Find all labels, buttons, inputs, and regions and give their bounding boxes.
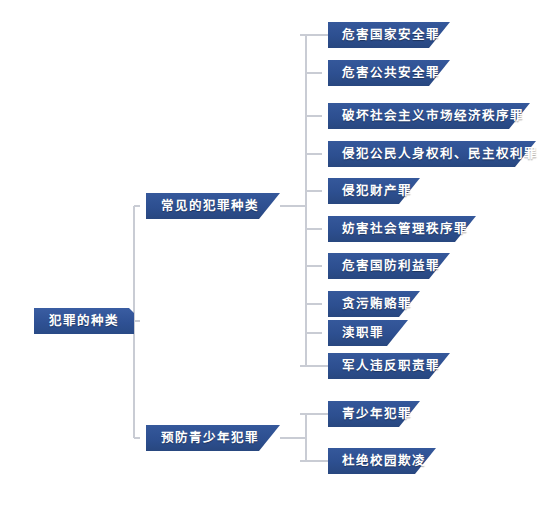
node-label: 破坏社会主义市场经济秩序罪 xyxy=(328,110,524,123)
node-label: 犯罪的种类 xyxy=(34,315,134,328)
node-leaf-dereliction-of-duty[interactable]: 渎职罪 xyxy=(328,320,408,346)
node-leaf-embezzlement-and-bribery[interactable]: 贪污贿赂罪 xyxy=(328,291,420,317)
node-leaf-military-duty-violation[interactable]: 军人违反职责罪 xyxy=(328,353,450,379)
node-root[interactable]: 犯罪的种类 xyxy=(34,308,134,334)
node-leaf-infringing-personal-democratic-rights[interactable]: 侵犯公民人身权利、民主权利罪 xyxy=(328,141,536,167)
node-label: 杜绝校园欺凌 xyxy=(328,455,426,468)
node-label: 渎职罪 xyxy=(328,327,384,340)
node-leaf-obstructing-social-administration-order[interactable]: 妨害社会管理秩序罪 xyxy=(328,216,476,242)
node-label: 常见的犯罪种类 xyxy=(146,200,259,213)
node-leaf-endangering-public-security[interactable]: 危害公共安全罪 xyxy=(328,60,450,86)
node-label: 军人违反职责罪 xyxy=(328,360,440,373)
node-label: 妨害社会管理秩序罪 xyxy=(328,223,468,236)
node-leaf-disrupting-market-economic-order[interactable]: 破坏社会主义市场经济秩序罪 xyxy=(328,103,530,129)
connector-root-bracket xyxy=(134,206,140,438)
node-label: 危害国家安全罪 xyxy=(328,29,440,42)
node-leaf-juvenile-delinquency[interactable]: 青少年犯罪 xyxy=(328,401,420,427)
diagram-canvas: 犯罪的种类 常见的犯罪种类 预防青少年犯罪 危害国家安全罪 危害公共安全罪 破坏… xyxy=(0,0,555,508)
node-leaf-endangering-national-security[interactable]: 危害国家安全罪 xyxy=(328,22,450,48)
connector-branch1-bracket xyxy=(300,35,306,366)
node-label: 侵犯财产罪 xyxy=(328,185,412,198)
node-label: 危害国防利益罪 xyxy=(328,260,440,273)
node-leaf-endangering-national-defense-interests[interactable]: 危害国防利益罪 xyxy=(328,253,450,279)
node-label: 侵犯公民人身权利、民主权利罪 xyxy=(328,148,538,161)
node-branch-common-crime-types[interactable]: 常见的犯罪种类 xyxy=(146,193,280,219)
node-label: 贪污贿赂罪 xyxy=(328,298,412,311)
node-label: 青少年犯罪 xyxy=(328,408,412,421)
node-leaf-property-infringement[interactable]: 侵犯财产罪 xyxy=(328,178,420,204)
node-label: 预防青少年犯罪 xyxy=(146,432,259,445)
node-label: 危害公共安全罪 xyxy=(328,67,440,80)
node-leaf-stop-campus-bullying[interactable]: 杜绝校园欺凌 xyxy=(328,448,436,474)
node-branch-juvenile-crime-prevention[interactable]: 预防青少年犯罪 xyxy=(146,425,280,451)
connector-branch2-bracket xyxy=(300,414,306,461)
